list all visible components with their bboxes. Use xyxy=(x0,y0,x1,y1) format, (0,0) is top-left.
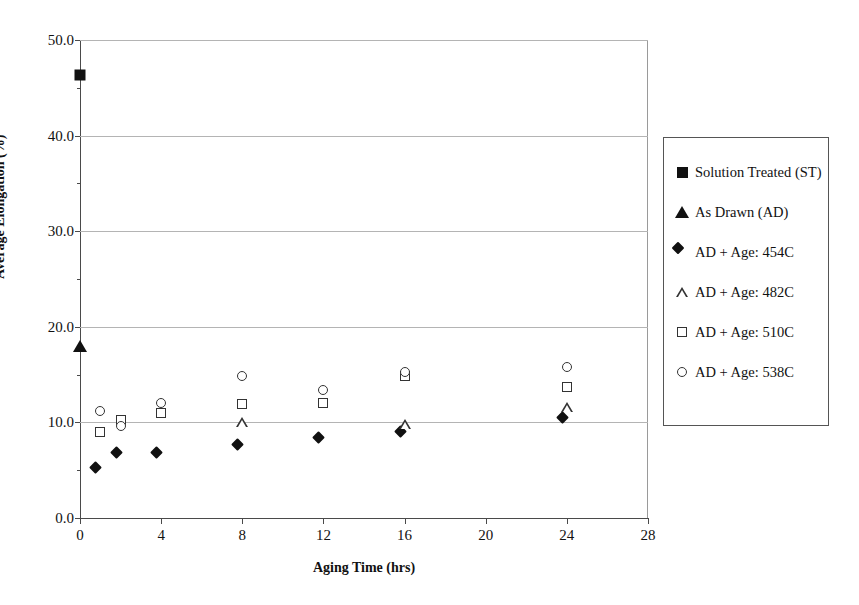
y-tick-label: 50.0 xyxy=(48,32,74,49)
x-tick xyxy=(486,518,487,524)
marker-open-square xyxy=(156,408,166,418)
data-point xyxy=(95,406,105,416)
x-tick-label: 4 xyxy=(157,527,165,544)
gridline xyxy=(80,231,648,232)
marker-filled-diamond xyxy=(150,446,163,459)
legend-item[interactable]: As Drawn (AD) xyxy=(674,192,828,232)
marker-filled-square xyxy=(677,167,688,178)
gridline xyxy=(80,136,648,137)
marker-open-square xyxy=(318,398,328,408)
x-tick xyxy=(161,518,162,524)
y-tick-label: 0.0 xyxy=(55,510,74,527)
gridline xyxy=(80,327,648,328)
legend-label: As Drawn (AD) xyxy=(695,204,788,221)
legend-marker xyxy=(674,248,690,257)
y-tick-label: 40.0 xyxy=(48,127,74,144)
y-tick-minor xyxy=(77,375,80,376)
data-point xyxy=(237,399,247,409)
data-point xyxy=(562,418,571,427)
legend-marker xyxy=(674,206,690,218)
x-tick xyxy=(242,518,243,524)
y-tick-major xyxy=(75,40,80,41)
legend-label: AD + Age: 538C xyxy=(695,364,794,381)
data-point xyxy=(238,445,247,454)
legend-item[interactable]: AD + Age: 538C xyxy=(674,352,828,392)
legend-box: Solution Treated (ST)As Drawn (AD)AD + A… xyxy=(663,137,829,426)
marker-open-circle xyxy=(156,398,166,408)
y-tick-label: 30.0 xyxy=(48,223,74,240)
x-tick xyxy=(567,518,568,524)
x-tick xyxy=(80,518,81,524)
legend-label: AD + Age: 510C xyxy=(695,324,794,341)
marker-filled-square xyxy=(75,70,86,81)
data-point xyxy=(116,421,126,431)
y-axis-tick-labels: 0.010.020.030.040.050.0 xyxy=(0,40,74,518)
legend-item[interactable]: Solution Treated (ST) xyxy=(674,152,828,192)
marker-open-circle xyxy=(677,367,687,377)
legend-marker xyxy=(674,367,690,377)
legend-label: Solution Treated (ST) xyxy=(695,164,821,181)
data-point xyxy=(562,382,572,392)
data-point xyxy=(156,398,166,408)
data-point xyxy=(318,385,328,395)
x-tick-label: 16 xyxy=(397,527,412,544)
x-axis-title: Aging Time (hrs) xyxy=(80,560,648,576)
x-tick-label: 12 xyxy=(316,527,331,544)
x-tick xyxy=(648,518,649,524)
data-point xyxy=(95,427,105,437)
marker-open-circle xyxy=(318,385,328,395)
data-point xyxy=(157,452,166,461)
marker-open-circle xyxy=(562,362,572,372)
y-tick-minor xyxy=(77,470,80,471)
data-point xyxy=(400,367,410,377)
x-axis-ticks xyxy=(80,518,648,526)
marker-filled-diamond xyxy=(313,432,326,445)
plot-frame-right xyxy=(647,40,648,518)
marker-open-triangle xyxy=(236,417,248,427)
marker-filled-diamond xyxy=(89,461,102,474)
marker-open-circle xyxy=(95,406,105,416)
data-point xyxy=(562,362,572,372)
legend-item[interactable]: AD + Age: 482C xyxy=(674,272,828,312)
data-point xyxy=(156,408,166,418)
legend-label: AD + Age: 482C xyxy=(695,284,794,301)
marker-open-circle xyxy=(116,421,126,431)
marker-open-square xyxy=(677,327,687,337)
plot-area xyxy=(80,40,648,518)
data-point xyxy=(73,340,87,352)
x-tick xyxy=(405,518,406,524)
marker-filled-triangle xyxy=(675,206,689,218)
marker-open-square xyxy=(237,399,247,409)
data-point xyxy=(236,417,248,427)
y-tick-major xyxy=(75,422,80,423)
y-tick-major xyxy=(75,231,80,232)
data-point xyxy=(96,468,105,477)
marker-filled-diamond xyxy=(231,438,244,451)
marker-filled-diamond xyxy=(110,446,123,459)
gridline xyxy=(80,40,648,41)
data-point xyxy=(75,70,86,81)
marker-open-square xyxy=(95,427,105,437)
x-tick-label: 8 xyxy=(239,527,247,544)
y-tick-minor xyxy=(77,183,80,184)
y-tick-minor xyxy=(77,88,80,89)
legend-item[interactable]: AD + Age: 510C xyxy=(674,312,828,352)
legend-item[interactable]: AD + Age: 454C xyxy=(674,232,828,272)
x-tick-label: 0 xyxy=(76,527,84,544)
legend-marker xyxy=(674,287,690,297)
data-point xyxy=(561,402,573,412)
y-tick-label: 20.0 xyxy=(48,318,74,335)
marker-open-triangle xyxy=(561,402,573,412)
y-tick-major xyxy=(75,136,80,137)
data-point xyxy=(318,398,328,408)
marker-filled-diamond xyxy=(671,241,684,254)
data-point xyxy=(319,438,328,447)
data-point xyxy=(237,371,247,381)
x-tick xyxy=(323,518,324,524)
chart-figure: 0.010.020.030.040.050.0 0481216202428 Av… xyxy=(0,0,859,605)
marker-open-circle xyxy=(237,371,247,381)
marker-open-triangle xyxy=(399,419,411,429)
marker-open-square xyxy=(562,382,572,392)
y-tick-label: 10.0 xyxy=(48,414,74,431)
y-tick-minor xyxy=(77,279,80,280)
